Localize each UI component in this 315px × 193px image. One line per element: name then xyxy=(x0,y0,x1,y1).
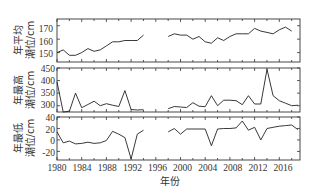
xtick-2016: 2016 xyxy=(274,163,293,173)
series-line-panel-2 xyxy=(168,69,298,108)
ylabel-annual-mean: 年平均 潮位/cm xyxy=(12,21,36,60)
ytick-p2-350: 350 xyxy=(41,88,56,98)
ylabel-annual-max: 年最高 潮位/cm xyxy=(12,71,36,110)
svg-text:潮位/cm: 潮位/cm xyxy=(24,71,36,110)
series-line-panel-3 xyxy=(168,121,298,146)
x-tick-labels: 1980 1984 1988 1992 1996 2000 2004 2008 … xyxy=(48,163,293,173)
ytick-p3-neg20: -20 xyxy=(42,148,55,158)
xtick-1984: 1984 xyxy=(73,163,92,173)
ytick-p3-20: 20 xyxy=(46,125,56,135)
panel-annual-mean-frame xyxy=(57,19,300,62)
series-line-panel-3 xyxy=(57,130,144,159)
xtick-2008: 2008 xyxy=(223,163,242,173)
x-axis-title: 年份 xyxy=(160,175,180,187)
panel-annual-min-frame xyxy=(57,117,300,160)
xtick-1996: 1996 xyxy=(148,163,167,173)
svg-text:年平均: 年平均 xyxy=(12,25,24,55)
series-line-panel-2 xyxy=(57,82,144,112)
ytick-p1-170: 170 xyxy=(39,24,54,34)
ylabel-annual-min: 年最低 潮位/cm xyxy=(12,119,36,158)
xtick-1992: 1992 xyxy=(123,163,142,173)
series-line-panel-1 xyxy=(168,27,292,43)
svg-text:潮位/cm: 潮位/cm xyxy=(24,21,36,60)
tide-level-chart: 170 160 150 450 400 350 300 40 20 0 -20 … xyxy=(0,0,315,193)
xtick-2012: 2012 xyxy=(249,163,268,173)
ytick-p2-400: 400 xyxy=(41,76,56,86)
ytick-p3-40: 40 xyxy=(46,113,56,123)
ytick-p2-450: 450 xyxy=(41,64,56,74)
series-line-panel-1 xyxy=(57,35,144,55)
svg-text:潮位/cm: 潮位/cm xyxy=(24,119,36,158)
svg-text:年最高: 年最高 xyxy=(12,75,24,105)
ytick-p3-0: 0 xyxy=(50,136,55,146)
svg-text:年最低: 年最低 xyxy=(12,123,24,153)
xtick-1980: 1980 xyxy=(48,163,67,173)
ytick-p1-160: 160 xyxy=(39,37,54,47)
xtick-1988: 1988 xyxy=(98,163,117,173)
ytick-p2-300: 300 xyxy=(41,100,56,110)
xtick-2004: 2004 xyxy=(198,163,217,173)
data-series xyxy=(57,27,298,159)
ytick-p1-150: 150 xyxy=(39,49,54,59)
xtick-2000: 2000 xyxy=(173,163,192,173)
